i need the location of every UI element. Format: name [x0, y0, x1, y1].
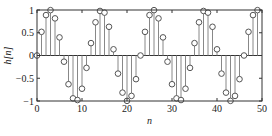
- stem-marker: [241, 53, 247, 59]
- stem-marker: [79, 86, 85, 92]
- stem-marker: [57, 35, 63, 41]
- stem-marker: [84, 65, 90, 71]
- stem-marker: [192, 40, 198, 46]
- stem-marker: [165, 59, 171, 65]
- stem-marker: [214, 47, 220, 53]
- stem-marker: [120, 90, 126, 96]
- stem-marker: [106, 24, 112, 30]
- stem-marker: [75, 97, 81, 103]
- stem-marker: [187, 65, 193, 71]
- y-axis-label: h[n]: [2, 47, 13, 65]
- stem-marker: [205, 10, 211, 16]
- stem-marker: [111, 47, 117, 53]
- x-tick-label: 10: [77, 103, 87, 114]
- stem-marker: [223, 90, 229, 96]
- stem-marker: [246, 29, 252, 35]
- stem-marker: [61, 59, 67, 65]
- stem-marker: [196, 19, 202, 25]
- x-tick-label: 50: [257, 103, 267, 114]
- x-axis-label: n: [147, 115, 152, 126]
- stem-marker: [178, 97, 184, 103]
- stem-marker: [142, 29, 148, 35]
- stem-marker: [133, 76, 139, 82]
- y-tick-label: 1: [29, 5, 34, 16]
- stem-marker: [93, 19, 99, 25]
- stem-marker: [66, 81, 72, 87]
- stem-marker: [156, 16, 162, 22]
- stem-marker: [183, 86, 189, 92]
- stem-marker: [219, 71, 225, 77]
- plot-area: [34, 7, 262, 103]
- stem-marker: [232, 93, 238, 99]
- stem-marker: [129, 93, 135, 99]
- x-tick-label: 40: [212, 103, 222, 114]
- y-tick-label: −0.5: [16, 73, 34, 84]
- stem-marker: [237, 76, 243, 82]
- stem-marker: [138, 53, 144, 59]
- stem-marker: [115, 71, 121, 77]
- x-tick-label: 30: [167, 103, 177, 114]
- stem-marker: [102, 10, 108, 16]
- x-tick-label: 0: [35, 103, 40, 114]
- stem-marker: [250, 12, 256, 18]
- y-tick-label: −1: [23, 96, 34, 107]
- y-tick-label: 0: [29, 50, 34, 61]
- stem-chart: 01020304050 −1−0.500.51 n h[n]: [0, 0, 272, 136]
- stem-marker: [147, 12, 153, 18]
- x-tick-label: 20: [122, 103, 132, 114]
- stem-marker: [39, 29, 45, 35]
- stem-marker: [43, 12, 49, 18]
- stem-marker: [88, 40, 94, 46]
- stem-marker: [52, 16, 58, 22]
- stem-marker: [169, 81, 175, 87]
- y-tick-label: 0.5: [22, 27, 35, 38]
- stem-marker: [210, 24, 216, 30]
- stem-marker: [160, 35, 166, 41]
